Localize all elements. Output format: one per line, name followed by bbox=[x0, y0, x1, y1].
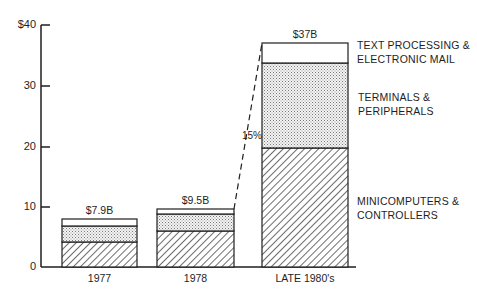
legend-minicomputers: MINICOMPUTERS & CONTROLLERS bbox=[357, 194, 459, 222]
category-label-1978: 1978 bbox=[157, 272, 234, 284]
growth-percent-label: 15% bbox=[242, 130, 262, 141]
y-tick-label-40: $40 bbox=[2, 18, 36, 30]
legend-terminals: TERMINALS & PERIPHERALS bbox=[358, 90, 434, 118]
total-label-1977: $7.9B bbox=[62, 204, 137, 216]
y-axis bbox=[41, 25, 50, 267]
bar-1978 bbox=[157, 209, 234, 267]
y-tick-label-0: 0 bbox=[2, 260, 36, 272]
growth-dashed-line bbox=[234, 43, 262, 209]
bar-late-1980s bbox=[262, 43, 348, 267]
total-label-1978: $9.5B bbox=[157, 194, 234, 206]
legend-text-processing: TEXT PROCESSING & ELECTRONIC MAIL bbox=[357, 38, 470, 66]
y-tick-label-30: 30 bbox=[2, 79, 36, 91]
bar-1977 bbox=[62, 219, 137, 267]
y-tick-label-20: 20 bbox=[2, 140, 36, 152]
category-label-1977: 1977 bbox=[62, 272, 137, 284]
total-label-late-1980s: $37B bbox=[262, 28, 348, 40]
y-tick-label-10: 10 bbox=[2, 200, 36, 212]
category-label-late-1980s: LATE 1980's bbox=[262, 272, 348, 284]
